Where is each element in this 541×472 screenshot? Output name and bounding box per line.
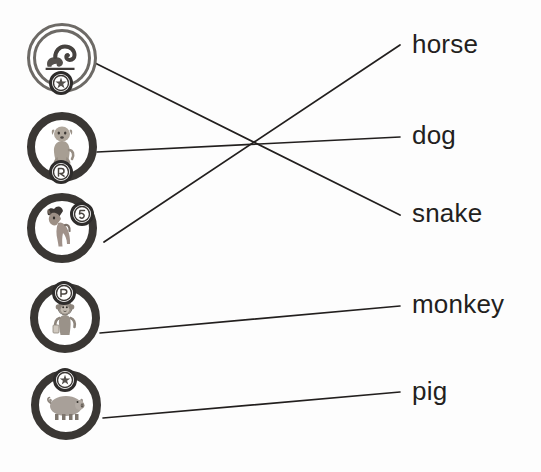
label-monkey[interactable]: monkey xyxy=(412,291,504,317)
horse-medallion-icon[interactable] xyxy=(23,189,101,267)
line-monkey-to-monkey[interactable] xyxy=(100,306,400,333)
snake-medallion-icon[interactable] xyxy=(23,19,101,97)
matching-worksheet: horse dog snake monkey pig xyxy=(0,0,541,472)
label-pig[interactable]: pig xyxy=(412,378,447,404)
line-snake-to-snake[interactable] xyxy=(93,62,400,215)
medallion-badge xyxy=(49,71,73,95)
label-snake[interactable]: snake xyxy=(412,200,482,226)
dog-medallion-icon[interactable] xyxy=(23,108,101,186)
monkey-medallion-icon[interactable] xyxy=(26,279,104,357)
line-dog-to-dog[interactable] xyxy=(97,137,400,152)
line-horse-to-horse[interactable] xyxy=(104,45,400,242)
medallion-badge xyxy=(53,368,77,392)
label-horse[interactable]: horse xyxy=(412,31,478,57)
medallion-badge xyxy=(70,202,94,226)
medallion-badge xyxy=(52,281,76,305)
medallion-badge xyxy=(49,160,73,184)
pig-medallion-icon[interactable] xyxy=(27,366,105,444)
label-dog[interactable]: dog xyxy=(412,122,456,148)
line-pig-to-pig[interactable] xyxy=(103,392,400,418)
